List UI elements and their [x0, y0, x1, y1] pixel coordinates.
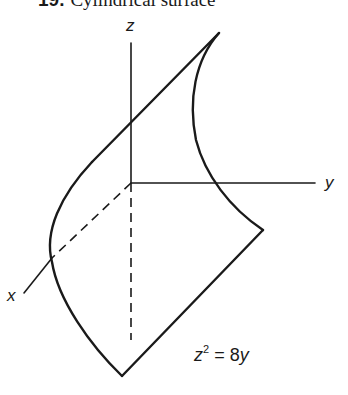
surface-left-parabola [50, 162, 122, 376]
equation-lhs-var: z [194, 345, 203, 365]
z-axis-label: z [126, 16, 135, 36]
surface-right-parabola [193, 33, 263, 230]
cylindrical-surface-diagram [0, 0, 348, 395]
equation-coefficient: 8 [230, 345, 240, 365]
surface-equation: z2 = 8y [194, 343, 249, 366]
surface-top-edge [92, 33, 219, 162]
equation-rhs-var: y [240, 345, 249, 365]
x-axis-hidden [52, 183, 131, 258]
x-axis-label: x [7, 286, 16, 306]
equation-exponent: 2 [203, 343, 209, 355]
y-axis-label: y [325, 173, 334, 193]
x-axis [24, 258, 52, 293]
equation-operator: = [214, 345, 225, 365]
